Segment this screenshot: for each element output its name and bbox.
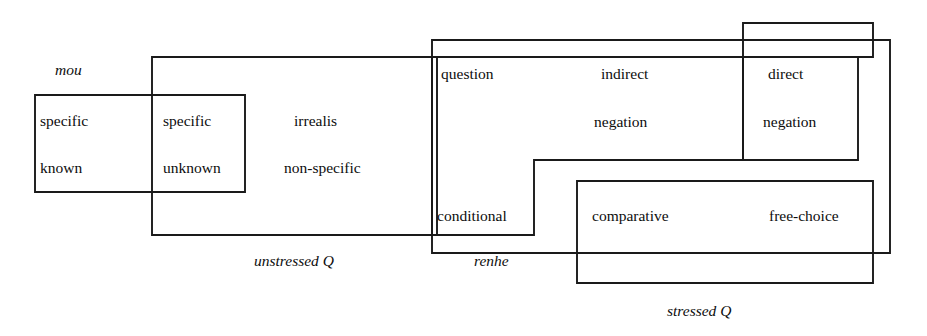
node-direct-negation: negation bbox=[763, 114, 816, 130]
node-specific-known-line1: specific bbox=[40, 113, 88, 129]
node-direct: direct bbox=[768, 66, 803, 82]
region-label-stressed-q: stressed Q bbox=[667, 303, 731, 319]
node-indirect: indirect bbox=[601, 66, 648, 82]
node-irrealis: irrealis bbox=[294, 113, 337, 129]
node-specific-unknown-line1: specific bbox=[163, 113, 211, 129]
node-specific-unknown-line2: unknown bbox=[163, 160, 221, 176]
node-free-choice: free-choice bbox=[769, 208, 839, 224]
semantic-map-figure: mou unstressed Q renhe stressed Q specif… bbox=[0, 0, 927, 336]
region-label-unstressed-q: unstressed Q bbox=[254, 253, 334, 269]
node-conditional: conditional bbox=[437, 208, 507, 224]
region-label-renhe: renhe bbox=[474, 253, 509, 269]
region-label-mou: mou bbox=[55, 62, 82, 78]
node-question: question bbox=[441, 66, 494, 82]
node-non-specific: non-specific bbox=[284, 160, 361, 176]
node-comparative: comparative bbox=[592, 208, 669, 224]
region-outline-mou bbox=[35, 95, 245, 192]
node-indirect-negation: negation bbox=[594, 114, 647, 130]
region-outline-unstressed-q bbox=[152, 57, 437, 235]
region-outlines bbox=[0, 0, 927, 336]
node-specific-known-line2: known bbox=[40, 160, 82, 176]
region-outline-stressed-q bbox=[577, 181, 873, 283]
